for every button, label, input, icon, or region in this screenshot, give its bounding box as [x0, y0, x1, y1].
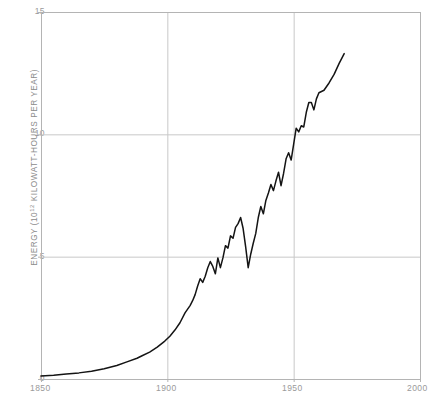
- data-line-world-energy: [41, 54, 344, 376]
- chart-container: ENERGY (1012 KILOWATT-HOURS PER YEAR) 15…: [0, 0, 429, 411]
- plot-svg: [0, 0, 429, 411]
- axes: [38, 12, 421, 382]
- gridlines: [41, 12, 420, 379]
